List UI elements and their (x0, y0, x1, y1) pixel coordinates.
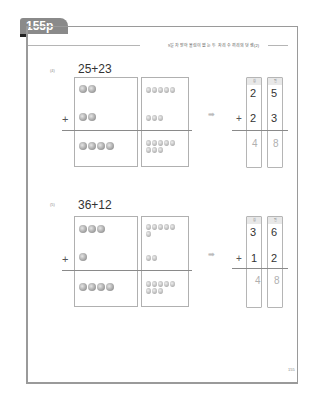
ones-coins-top (146, 224, 178, 237)
column-header: 십 (247, 217, 261, 224)
problem-number: (4) (50, 68, 55, 73)
tens-coins-top (79, 85, 129, 93)
worksheet-header: 9일차 받아올림이 없는 두 자리 수끼리의 덧셈(2) (168, 42, 259, 48)
answer-tens: 4 (252, 138, 258, 149)
answer-ones: 8 (273, 138, 279, 149)
digit-a-ones: 5 (271, 87, 277, 99)
plus-sign: + (62, 253, 68, 265)
ones-coins-bottom (146, 255, 186, 261)
column-header: 십 (247, 78, 261, 85)
tens-coins-result (79, 283, 129, 291)
digit-b-tens: 2 (250, 112, 256, 124)
arrow-icon: ➡ (208, 110, 215, 119)
digit-b-ones: 2 (271, 252, 277, 264)
tens-coins-result (79, 142, 129, 150)
header-rule-left (28, 45, 140, 46)
arrow-icon: ➡ (208, 250, 215, 259)
vertical-sum-line (232, 130, 288, 131)
digit-a-tens: 2 (250, 87, 256, 99)
problem-expression: 36+12 (78, 198, 112, 212)
tens-coins-bottom (79, 113, 129, 121)
digit-b-tens: 1 (251, 252, 257, 264)
page-number: 155 (288, 367, 295, 372)
plus-sign-vertical: + (236, 253, 242, 264)
problem-number: (5) (50, 202, 55, 207)
digit-b-ones: 3 (271, 112, 277, 124)
header-rule-right (268, 45, 288, 46)
sum-line (62, 130, 192, 131)
tens-coins-top (79, 225, 129, 233)
sum-line (62, 270, 192, 271)
digit-a-tens: 3 (250, 226, 256, 238)
column-header: 일 (268, 217, 282, 224)
answer-ones: 8 (274, 275, 280, 286)
ones-coins-bottom (146, 115, 186, 121)
vertical-sum-line (232, 268, 288, 269)
ones-coins-result (146, 281, 178, 294)
answer-tens: 4 (255, 275, 261, 286)
plus-sign: + (62, 113, 68, 125)
problem-expression: 25+23 (78, 62, 112, 76)
plus-sign-vertical: + (236, 113, 242, 124)
tens-coins-bottom (79, 253, 129, 261)
ones-coins-result (146, 140, 178, 153)
ones-coins-top (146, 87, 186, 93)
digit-a-ones: 6 (271, 226, 277, 238)
column-header: 일 (268, 78, 282, 85)
